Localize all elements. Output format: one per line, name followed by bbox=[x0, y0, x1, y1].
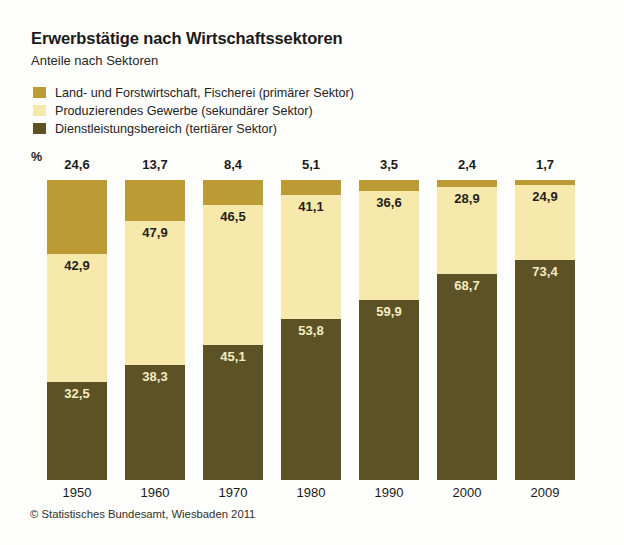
bar-segment-tertiary: 53,8 bbox=[281, 319, 341, 480]
x-axis-label: 1960 bbox=[125, 485, 185, 500]
bar-segment-secondary: 36,6 bbox=[359, 191, 419, 301]
x-axis-label: 1990 bbox=[359, 485, 419, 500]
bar-segment-secondary: 28,9 bbox=[437, 187, 497, 274]
bar-column: 24,642,932,51950 bbox=[47, 0, 107, 545]
bar-segment-value: 59,9 bbox=[359, 304, 419, 319]
bar-segment-value: 46,5 bbox=[203, 209, 263, 224]
bar-segment-value: 28,9 bbox=[437, 191, 497, 206]
bar-segment-value: 73,4 bbox=[515, 264, 575, 279]
bar-segment-primary bbox=[47, 180, 107, 254]
bar-segment-secondary: 47,9 bbox=[125, 221, 185, 365]
bar-segment-secondary: 24,9 bbox=[515, 185, 575, 260]
bar-stack: 42,932,5 bbox=[47, 180, 107, 480]
bar-segment-tertiary: 45,1 bbox=[203, 345, 263, 480]
bar-segment-secondary: 46,5 bbox=[203, 205, 263, 345]
bar-top-value: 1,7 bbox=[515, 157, 575, 172]
bar-stack: 24,973,4 bbox=[515, 180, 575, 480]
bar-segment-primary bbox=[203, 180, 263, 205]
bar-segment-value: 38,3 bbox=[125, 369, 185, 384]
bar-segment-value: 47,9 bbox=[125, 225, 185, 240]
bar-top-value: 24,6 bbox=[47, 157, 107, 172]
bar-top-value: 8,4 bbox=[203, 157, 263, 172]
bar-segment-primary bbox=[437, 180, 497, 187]
bar-column: 1,724,973,42009 bbox=[515, 0, 575, 545]
x-axis-label: 1970 bbox=[203, 485, 263, 500]
bar-top-value: 3,5 bbox=[359, 157, 419, 172]
bar-segment-value: 36,6 bbox=[359, 195, 419, 210]
bar-stack: 47,938,3 bbox=[125, 180, 185, 480]
bar-segment-tertiary: 59,9 bbox=[359, 300, 419, 480]
bar-segment-tertiary: 32,5 bbox=[47, 382, 107, 480]
bar-segment-value: 68,7 bbox=[437, 278, 497, 293]
bar-column: 13,747,938,31960 bbox=[125, 0, 185, 545]
x-axis-label: 2000 bbox=[437, 485, 497, 500]
bar-segment-value: 32,5 bbox=[47, 386, 107, 401]
bar-segment-primary bbox=[125, 180, 185, 221]
bar-top-value: 2,4 bbox=[437, 157, 497, 172]
bar-segment-secondary: 42,9 bbox=[47, 254, 107, 383]
bar-segment-primary bbox=[281, 180, 341, 195]
bar-top-value: 13,7 bbox=[125, 157, 185, 172]
bar-column: 8,446,545,11970 bbox=[203, 0, 263, 545]
bar-segment-value: 53,8 bbox=[281, 323, 341, 338]
bar-stack: 46,545,1 bbox=[203, 180, 263, 480]
bar-segment-tertiary: 38,3 bbox=[125, 365, 185, 480]
bar-segment-primary bbox=[359, 180, 419, 191]
bar-column: 5,141,153,81980 bbox=[281, 0, 341, 545]
bar-top-value: 5,1 bbox=[281, 157, 341, 172]
bar-segment-tertiary: 68,7 bbox=[437, 274, 497, 480]
x-axis-label: 2009 bbox=[515, 485, 575, 500]
x-axis-label: 1950 bbox=[47, 485, 107, 500]
x-axis-label: 1980 bbox=[281, 485, 341, 500]
bar-stack: 36,659,9 bbox=[359, 180, 419, 480]
bar-segment-secondary: 41,1 bbox=[281, 195, 341, 318]
bar-segment-value: 24,9 bbox=[515, 189, 575, 204]
bar-stack: 41,153,8 bbox=[281, 180, 341, 480]
bar-segment-value: 41,1 bbox=[281, 199, 341, 214]
bar-column: 2,428,968,72000 bbox=[437, 0, 497, 545]
source-note: © Statistisches Bundesamt, Wiesbaden 201… bbox=[30, 508, 255, 520]
bar-segment-value: 45,1 bbox=[203, 349, 263, 364]
chart-page: Erwerbstätige nach Wirtschaftssektoren A… bbox=[0, 0, 624, 545]
bar-segment-value: 42,9 bbox=[47, 258, 107, 273]
bar-segment-tertiary: 73,4 bbox=[515, 260, 575, 480]
stacked-bar-plot: 24,642,932,5195013,747,938,319608,446,54… bbox=[0, 0, 624, 545]
bar-stack: 28,968,7 bbox=[437, 180, 497, 480]
bar-column: 3,536,659,91990 bbox=[359, 0, 419, 545]
